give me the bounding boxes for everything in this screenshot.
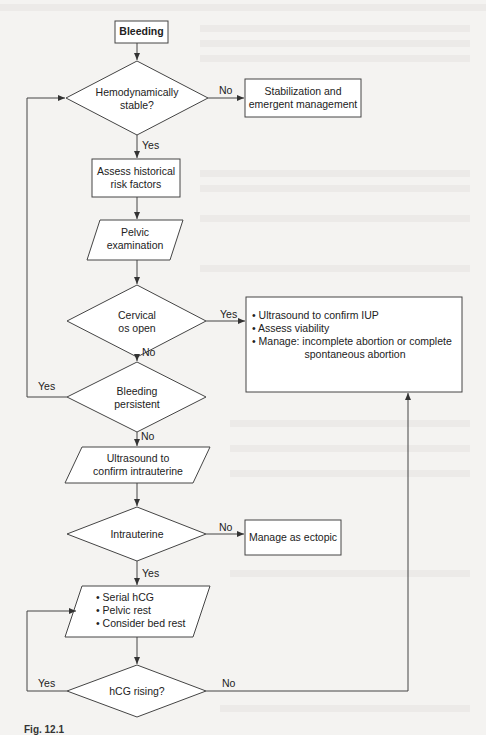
label-line: • Assess viability (252, 322, 458, 335)
label-pelvic-exam: Pelvic examination (87, 226, 183, 252)
label-line: persistent (95, 398, 179, 411)
edge-label-hcg-yes: Yes (38, 677, 55, 689)
edge-label-cervical-yes: Yes (220, 308, 237, 320)
edge-label-intrauterine-yes: Yes (142, 567, 159, 579)
label-line: stable? (80, 99, 194, 112)
label-hemodynamically-stable: Hemodynamically stable? (80, 86, 194, 112)
edge-label-intrauterine-no: No (219, 521, 232, 533)
label-line: • Consider bed rest (96, 617, 206, 630)
label-manage-ectopic: Manage as ectopic (245, 531, 341, 544)
label-bleeding-persistent: Bleeding persistent (95, 385, 179, 411)
label-intrauterine: Intrauterine (95, 528, 179, 541)
label-line: confirm intrauterine (78, 465, 198, 478)
edge-label-persistent-yes: Yes (38, 380, 55, 392)
label-line: os open (95, 322, 179, 335)
label-ultrasound-iup: • Ultrasound to confirm IUP • Assess via… (252, 309, 458, 361)
label-line: • Manage: incomplete abortion or complet… (252, 335, 458, 348)
label-line: Ultrasound to (78, 452, 198, 465)
flowchart-canvas (0, 0, 486, 735)
label-line: Cervical (95, 309, 179, 322)
label-line: • Serial hCG (96, 591, 206, 604)
label-cervical-os: Cervical os open (95, 309, 179, 335)
label-line: Assess historical (92, 165, 180, 178)
edge-label-persistent-no: No (141, 430, 154, 442)
label-bleeding: Bleeding (115, 25, 168, 38)
label-ultrasound-intrauterine: Ultrasound to confirm intrauterine (78, 452, 198, 478)
figure-caption: Fig. 12.1 (24, 724, 64, 735)
edge-label-cervical-no: No (142, 346, 155, 358)
label-assess-risk: Assess historical risk factors (92, 165, 180, 191)
label-line: • Pelvic rest (96, 604, 206, 617)
edge-label-stable-yes: Yes (142, 139, 159, 151)
label-line: spontaneous abortion (252, 348, 458, 361)
edge-label-stable-no: No (219, 84, 232, 96)
label-line: • Ultrasound to confirm IUP (252, 309, 458, 322)
label-line: Bleeding (95, 385, 179, 398)
label-line: risk factors (92, 178, 180, 191)
label-serial-hcg: • Serial hCG • Pelvic rest • Consider be… (96, 591, 206, 630)
label-line: Pelvic (87, 226, 183, 239)
label-hcg-rising: hCG rising? (95, 685, 179, 698)
label-line: Hemodynamically (80, 86, 194, 99)
label-stabilization: Stabilization and emergent management (245, 85, 361, 111)
label-line: Stabilization and (245, 85, 361, 98)
label-line: emergent management (245, 98, 361, 111)
label-line: examination (87, 239, 183, 252)
edge-label-hcg-no: No (222, 677, 235, 689)
